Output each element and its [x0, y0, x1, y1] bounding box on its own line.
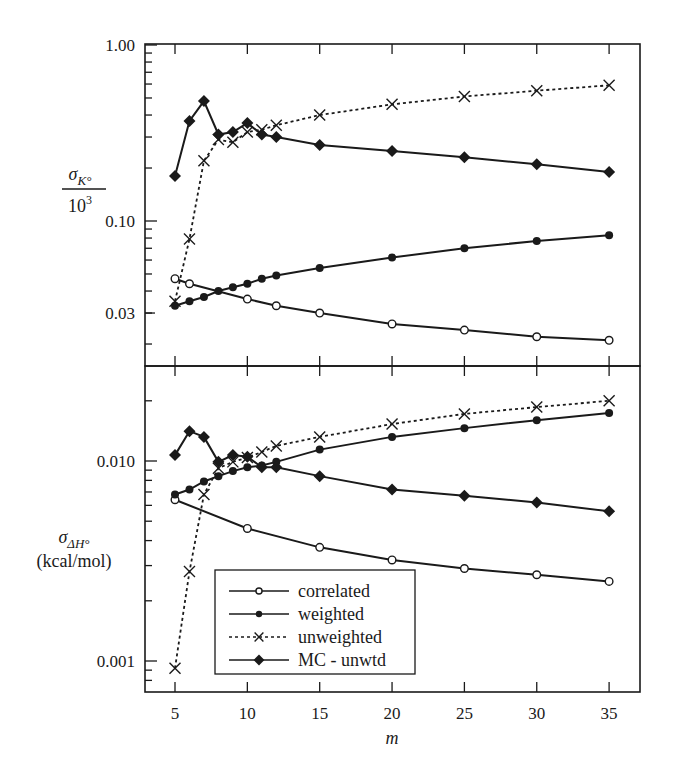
series-unweighted	[170, 80, 615, 307]
diamond-marker	[458, 490, 470, 502]
filled-circle-marker	[229, 283, 237, 291]
series-line	[175, 235, 609, 305]
x-marker	[387, 99, 398, 110]
top-ylabel-sigma: σK°	[69, 164, 92, 188]
y-tick-label: 0.03	[105, 304, 135, 323]
diamond-marker	[169, 449, 181, 461]
bottom-ylabel-sigma: σΔH°	[58, 527, 89, 551]
diamond-marker	[227, 126, 239, 138]
chart-figure: 1.000.100.030.0100.0015101520253035 σK° …	[0, 0, 686, 768]
x-tick-label: 10	[239, 704, 256, 723]
filled-circle-marker	[256, 611, 262, 617]
y-tick-label: 0.010	[97, 452, 135, 471]
filled-circle-marker	[258, 275, 266, 283]
y-tick-label: 1.00	[105, 36, 135, 55]
plot-frame	[145, 44, 640, 366]
filled-circle-marker	[605, 231, 613, 239]
diamond-marker	[198, 431, 210, 443]
open-circle-marker	[244, 295, 252, 303]
x-marker	[256, 446, 267, 457]
top-y-axis-label: σK° 103	[62, 164, 106, 216]
legend-label: weighted	[298, 604, 364, 624]
bottom-y-axis-label: σΔH° (kcal/mol)	[37, 527, 112, 572]
top-ylabel-denominator: 103	[68, 193, 92, 216]
diamond-marker	[386, 145, 398, 157]
open-circle-marker	[244, 525, 252, 533]
legend: correlatedweightedunweightedMC - unwtd	[215, 570, 415, 674]
diamond-marker	[603, 505, 615, 517]
filled-circle-marker	[316, 264, 324, 272]
filled-circle-marker	[243, 280, 251, 288]
legend-label: unweighted	[298, 627, 382, 647]
filled-circle-marker	[185, 297, 193, 305]
filled-circle-marker	[460, 244, 468, 252]
open-circle-marker	[388, 556, 396, 564]
open-circle-marker	[256, 588, 262, 594]
diamond-marker	[531, 497, 543, 509]
diamond-marker	[531, 158, 543, 170]
open-circle-marker	[316, 309, 324, 317]
open-circle-marker	[388, 320, 396, 328]
y-tick-label: 0.10	[105, 212, 135, 231]
diamond-marker	[458, 151, 470, 163]
filled-circle-marker	[460, 424, 468, 432]
diamond-marker	[603, 166, 615, 178]
top-panel: 1.000.100.03	[105, 36, 640, 366]
legend-label: MC - unwtd	[298, 650, 386, 670]
diamond-marker	[212, 129, 224, 141]
open-circle-marker	[272, 302, 280, 310]
series-line	[175, 85, 609, 301]
series-line	[175, 500, 609, 582]
open-circle-marker	[533, 333, 541, 341]
diamond-marker	[169, 170, 181, 182]
bottom-ylabel-units: (kcal/mol)	[37, 551, 112, 572]
x-marker	[170, 663, 181, 674]
series-line	[175, 413, 609, 495]
filled-circle-marker	[214, 287, 222, 295]
diamond-marker	[270, 131, 282, 143]
filled-circle-marker	[388, 254, 396, 262]
filled-circle-marker	[229, 467, 237, 475]
x-marker	[184, 566, 195, 577]
filled-circle-marker	[388, 433, 396, 441]
open-circle-marker	[316, 544, 324, 552]
filled-circle-marker	[243, 463, 251, 471]
open-circle-marker	[171, 275, 179, 283]
x-tick-label: 20	[384, 704, 401, 723]
open-circle-marker	[461, 326, 469, 334]
diamond-marker	[183, 425, 195, 437]
diamond-marker	[314, 470, 326, 482]
series-line	[175, 431, 609, 511]
open-circle-marker	[533, 571, 541, 579]
x-marker	[459, 91, 470, 102]
series-line	[175, 279, 609, 341]
diamond-marker	[227, 449, 239, 461]
open-circle-marker	[605, 336, 613, 344]
filled-circle-marker	[316, 446, 324, 454]
x-tick-label: 25	[456, 704, 473, 723]
x-marker	[604, 80, 615, 91]
series-line	[175, 101, 609, 176]
filled-circle-marker	[200, 293, 208, 301]
filled-circle-marker	[171, 302, 179, 310]
x-tick-label: 30	[528, 704, 545, 723]
x-tick-label: 15	[311, 704, 328, 723]
filled-circle-marker	[185, 486, 193, 494]
filled-circle-marker	[605, 409, 613, 417]
filled-circle-marker	[272, 272, 280, 280]
x-tick-label: 5	[171, 704, 180, 723]
open-circle-marker	[186, 280, 194, 288]
x-axis-label: m	[386, 728, 399, 748]
series-weighted	[171, 231, 613, 309]
filled-circle-marker	[533, 416, 541, 424]
filled-circle-marker	[171, 490, 179, 498]
open-circle-marker	[605, 578, 613, 586]
legend-label: correlated	[298, 581, 370, 601]
open-circle-marker	[461, 565, 469, 573]
diamond-marker	[386, 484, 398, 496]
x-marker	[198, 489, 209, 500]
diamond-marker	[314, 139, 326, 151]
y-tick-label: 0.001	[97, 652, 135, 671]
x-tick-label: 35	[601, 704, 618, 723]
x-marker	[387, 419, 398, 430]
